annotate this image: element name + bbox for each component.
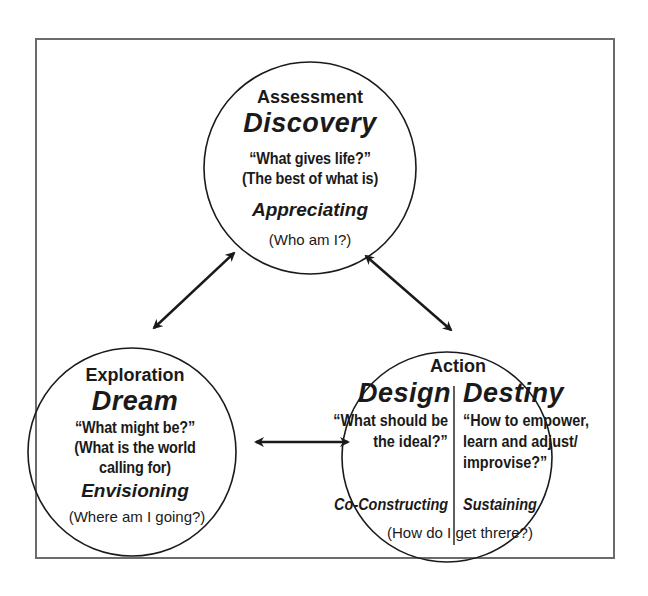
dream-reflection: (Where am I going?): [69, 509, 206, 524]
dream-question-2: (What is the world: [74, 439, 195, 456]
destiny-title: Destiny: [463, 380, 564, 407]
discovery-question-2: (The best of what is): [242, 170, 378, 187]
discovery-title: Discovery: [243, 110, 377, 137]
dream-question-1: “What might be?”: [75, 419, 195, 436]
destiny-question-3: improvise?”: [463, 454, 547, 471]
dream-question-3: calling for): [99, 459, 171, 476]
destiny-verb: Sustaining: [463, 496, 537, 513]
design-question-1: “What should be: [333, 412, 448, 429]
discovery-reflection: (Who am I?): [269, 232, 352, 247]
discovery-phase-label: Assessment: [257, 88, 363, 106]
destiny-question-2: learn and adjust/: [463, 433, 578, 450]
destiny-question-1: “How to empower,: [463, 412, 589, 429]
design-question-2: the ideal?”: [373, 433, 448, 450]
discovery-question-1: “What gives life?”: [249, 150, 370, 167]
action-phase-label: Action: [430, 357, 486, 375]
discovery-verb: Appreciating: [252, 200, 368, 219]
dream-verb: Envisioning: [81, 481, 189, 500]
arrow-discovery-dream: [154, 253, 234, 328]
design-verb: Co-Constructing: [334, 496, 448, 513]
arrow-discovery-action: [366, 256, 451, 330]
design-title: Design: [358, 380, 451, 407]
dream-phase-label: Exploration: [85, 366, 184, 384]
action-reflection: (How do I get threre?): [387, 525, 533, 540]
dream-title: Dream: [92, 388, 179, 415]
